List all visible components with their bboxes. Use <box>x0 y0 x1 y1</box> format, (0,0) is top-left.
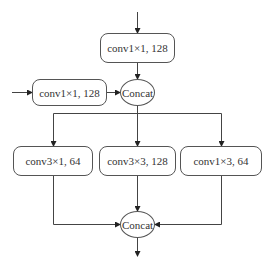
node-concat-2: Concat <box>120 211 155 238</box>
node-label: conv1×1, 128 <box>107 42 168 54</box>
node-side-conv: conv1×1, 128 <box>32 79 107 106</box>
node-label: Concat <box>122 219 153 231</box>
node-branch-right: conv1×3, 64 <box>180 146 262 176</box>
node-label: conv3×3, 128 <box>107 155 168 167</box>
node-label: conv1×3, 64 <box>193 155 248 167</box>
node-branch-middle: conv3×3, 128 <box>99 146 176 176</box>
node-label: conv3×1, 64 <box>25 155 80 167</box>
node-label: conv1×1, 128 <box>39 87 100 99</box>
diagram-canvas: conv1×1, 128 conv1×1, 128 Concat conv3×1… <box>0 0 273 268</box>
node-top-conv: conv1×1, 128 <box>100 33 175 63</box>
node-label: Concat <box>122 87 153 99</box>
node-concat-1: Concat <box>120 79 155 106</box>
node-branch-left: conv3×1, 64 <box>13 146 93 176</box>
